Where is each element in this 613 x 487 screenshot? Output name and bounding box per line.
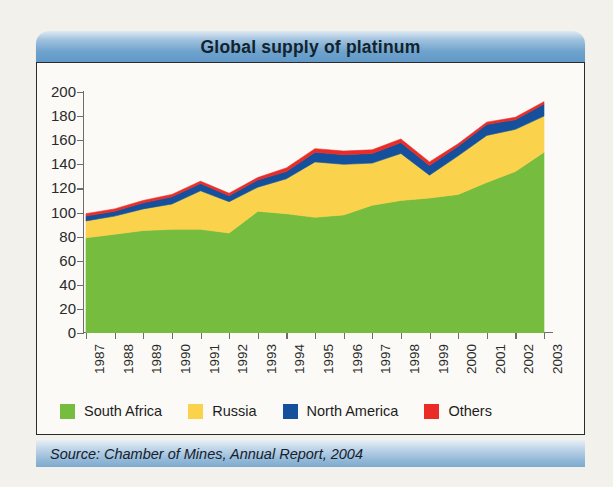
x-axis-tick-label: 1989 xyxy=(149,344,164,374)
x-axis-tick-label: 1993 xyxy=(264,344,279,374)
legend-swatch-icon xyxy=(424,404,439,419)
x-axis-tick-label: 1992 xyxy=(235,344,250,374)
x-axis-tick-label: 1999 xyxy=(436,344,451,374)
x-axis-tick-label: 2001 xyxy=(493,344,508,374)
x-axis-tick xyxy=(258,333,259,339)
x-axis-tick-label: 1996 xyxy=(350,344,365,374)
x-axis-tick xyxy=(515,333,516,339)
legend-label: Russia xyxy=(212,403,256,419)
x-axis-tick-label: 1994 xyxy=(292,344,307,374)
y-axis-tick-label: 100 xyxy=(36,204,76,221)
x-axis-tick xyxy=(143,333,144,339)
y-axis-tick-label: 140 xyxy=(36,155,76,172)
x-axis-tick-label: 1991 xyxy=(207,344,222,374)
x-axis-tick xyxy=(86,333,87,339)
x-axis-tick xyxy=(201,333,202,339)
chart-title-bar: Global supply of platinum xyxy=(36,31,585,64)
x-axis-tick xyxy=(372,333,373,339)
legend-item[interactable]: North America xyxy=(283,403,399,419)
x-axis-tick xyxy=(487,333,488,339)
x-axis-tick-label: 1997 xyxy=(378,344,393,374)
stacked-area-plot xyxy=(84,92,552,333)
legend-swatch-icon xyxy=(60,404,75,419)
legend-label: North America xyxy=(307,403,399,419)
x-axis-tick xyxy=(229,333,230,339)
source-bar: Source: Chamber of Mines, Annual Report,… xyxy=(36,440,585,467)
x-axis-tick-label: 2002 xyxy=(521,344,536,374)
x-axis-tick xyxy=(115,333,116,339)
legend-label: South Africa xyxy=(84,403,162,419)
x-axis-tick xyxy=(401,333,402,339)
x-axis-tick xyxy=(315,333,316,339)
y-axis-tick-label: 0 xyxy=(36,324,76,341)
y-axis-tick-label: 180 xyxy=(36,107,76,124)
y-axis-tick-label: 40 xyxy=(36,276,76,293)
x-axis-tick-label: 1990 xyxy=(178,344,193,374)
x-axis-tick xyxy=(172,333,173,339)
chart-legend: South AfricaRussiaNorth AmericaOthers xyxy=(60,400,560,422)
y-axis-tick-label: 160 xyxy=(36,131,76,148)
x-axis-tick-label: 2003 xyxy=(550,344,565,374)
y-axis-tick-label: 60 xyxy=(36,252,76,269)
x-axis-tick xyxy=(544,333,545,339)
y-axis-tick-label: 20 xyxy=(36,300,76,317)
legend-swatch-icon xyxy=(188,404,203,419)
x-axis-tick-label: 2000 xyxy=(464,344,479,374)
x-axis-tick xyxy=(286,333,287,339)
y-axis-tick-label: 80 xyxy=(36,228,76,245)
legend-item[interactable]: Russia xyxy=(188,403,256,419)
source-note: Source: Chamber of Mines, Annual Report,… xyxy=(36,446,363,462)
y-axis-tick-label: 120 xyxy=(36,179,76,196)
x-axis-tick-label: 1998 xyxy=(407,344,422,374)
legend-item[interactable]: Others xyxy=(424,403,492,419)
area-series-svg xyxy=(84,92,552,333)
page-title: Global supply of platinum xyxy=(36,31,585,64)
chart-page: Global supply of platinum 02040608010012… xyxy=(0,0,613,487)
x-axis-tick xyxy=(430,333,431,339)
x-axis-tick-label: 1988 xyxy=(121,344,136,374)
x-axis-tick xyxy=(344,333,345,339)
x-axis-tick-label: 1995 xyxy=(321,344,336,374)
legend-swatch-icon xyxy=(283,404,298,419)
y-axis-tick-label: 200 xyxy=(36,83,76,100)
x-axis-tick-label: 1987 xyxy=(92,344,107,374)
legend-item[interactable]: South Africa xyxy=(60,403,162,419)
legend-label: Others xyxy=(448,403,492,419)
x-axis-tick xyxy=(458,333,459,339)
